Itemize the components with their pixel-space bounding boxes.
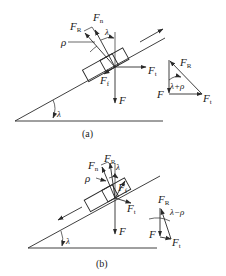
motion-arrow-b [58, 207, 82, 220]
triangle-angle-arc-b [149, 218, 170, 221]
label-Fn-a: Fn [92, 11, 104, 25]
label-FR-b: FR [103, 152, 116, 166]
incline-angle-arc-b [61, 231, 63, 246]
panel-b: λ FR Fn λ ρ Ff Ft F FR λ−ρ [28, 152, 185, 270]
panel-a: λ FR Fn λ ρ Ff Ft F [15, 11, 212, 140]
triangle-label-Ft-b: Ft [171, 236, 181, 250]
triangle-label-F-b: F [148, 228, 156, 240]
label-rho-b: ρ [84, 172, 90, 184]
label-Ft-a: Ft [147, 64, 157, 78]
rho-arc-b [96, 178, 106, 181]
incline-angle-arc-a [53, 100, 55, 118]
incline-angle-label-b: λ [65, 236, 70, 246]
triangle-Ft-b [160, 237, 171, 239]
caption-b: (b) [96, 258, 108, 270]
triangle-angle-arc-a [169, 76, 181, 80]
incline-angle-label-a: λ [56, 109, 61, 119]
incline-line-a [15, 38, 165, 121]
incline-line-b [28, 176, 160, 248]
triangle-label-FR-b: FR [157, 193, 170, 207]
label-lambda-b: λ [115, 162, 120, 172]
label-Ft-b: Ft [126, 202, 136, 216]
triangle-label-Ft-a: Ft [202, 92, 212, 106]
motion-arrow-a [140, 29, 163, 42]
lambda-arc-a [101, 37, 114, 40]
label-Ff-a: Ff [99, 74, 110, 88]
label-lambda-a: λ [104, 27, 109, 37]
triangle-label-FR-a: FR [179, 56, 192, 70]
label-Fn-b: Fn [87, 159, 99, 173]
label-FR-a: FR [69, 20, 82, 34]
triangle-label-F-a: F [156, 88, 164, 100]
force-triangle-a: FR λ+ρ F Ft [156, 56, 212, 106]
triangle-angle-label-b: λ−ρ [169, 207, 185, 217]
label-F-a: F [118, 94, 126, 106]
lambda-arc-b [109, 177, 118, 179]
rho-arc-a [90, 46, 97, 52]
caption-a: (a) [82, 128, 93, 140]
label-Ff-b: Ff [117, 181, 128, 195]
force-diagram: λ FR Fn λ ρ Ff Ft F [0, 0, 226, 276]
force-FR-a [85, 33, 115, 67]
force-triangle-b: FR λ−ρ F Ft [148, 193, 185, 250]
label-F-b: F [118, 225, 126, 237]
label-rho-a: ρ [60, 36, 66, 48]
triangle-angle-label-a: λ+ρ [169, 81, 185, 91]
